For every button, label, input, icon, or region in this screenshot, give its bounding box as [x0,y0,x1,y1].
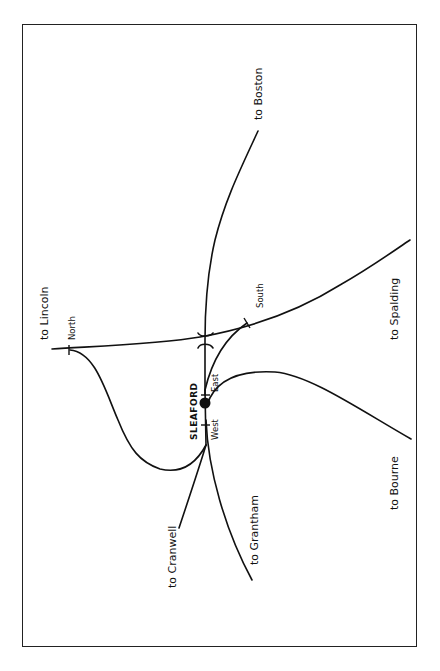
sleaford-station-dot [200,398,211,409]
line-to-bourne [207,372,411,439]
label-sleaford: SLEAFORD [189,382,199,440]
label-to-boston: to Boston [252,67,265,120]
label-west: West [210,418,220,440]
label-to-spalding: to Spalding [388,278,401,340]
label-south: South [255,283,265,308]
label-to-cranwell: to Cranwell [166,526,179,588]
label-north: North [67,316,77,340]
label-to-bourne: to Bourne [388,456,401,510]
label-to-grantham: to Grantham [248,495,261,565]
north-curve [70,350,206,470]
line-to-boston [205,131,258,395]
label-east: East [210,373,220,392]
line-lincoln-spalding [52,240,410,349]
line-to-cranwell [179,445,206,528]
line-to-grantham [206,420,252,580]
railway-map: to Boston to Lincoln North South to Spal… [0,0,440,671]
label-to-lincoln: to Lincoln [38,286,51,340]
